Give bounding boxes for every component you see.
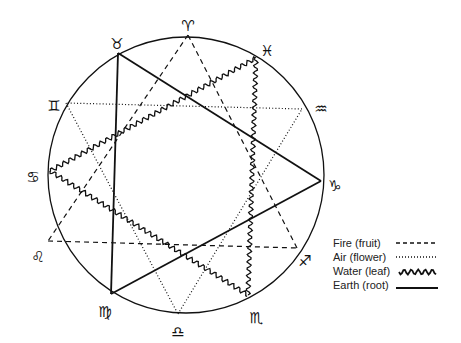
virgo-glyph-icon: ♍︎	[98, 303, 111, 321]
water-edge	[50, 171, 247, 296]
water-edge	[50, 57, 256, 172]
legend-item-air: Air (flower)	[333, 251, 438, 263]
zodiac-element-diagram: ♈︎♉︎♊︎♋︎♌︎♍︎♎︎♏︎♐︎♑︎♒︎♓︎ Fire (fruit)Air…	[0, 0, 461, 343]
outer-circle	[48, 37, 324, 313]
scorpio-glyph-icon: ♏︎	[249, 309, 263, 327]
pisces-glyph-icon: ♓︎	[260, 42, 273, 60]
legend: Fire (fruit)Air (flower)Water (leaf)Eart…	[333, 237, 438, 291]
legend-item-water: Water (leaf)	[333, 265, 436, 277]
earth-triangle	[111, 53, 321, 294]
legend-item-fire: Fire (fruit)	[333, 237, 438, 249]
gemini-glyph-icon: ♊︎	[47, 97, 60, 115]
legend-label: Earth (root)	[333, 279, 389, 291]
legend-label: Fire (fruit)	[333, 237, 381, 249]
zodiac-signs: ♈︎♉︎♊︎♋︎♌︎♍︎♎︎♏︎♐︎♑︎♒︎♓︎	[26, 17, 341, 341]
sagittarius-glyph-icon: ♐︎	[298, 252, 311, 270]
water-triangle	[50, 57, 258, 296]
legend-label: Air (flower)	[333, 251, 386, 263]
air-edge	[178, 109, 302, 314]
aries-glyph-icon: ♈︎	[181, 17, 194, 35]
air-edge	[66, 103, 178, 314]
zodiac-circle	[48, 37, 324, 313]
taurus-glyph-icon: ♉︎	[110, 35, 123, 53]
cancer-glyph-icon: ♋︎	[26, 168, 39, 186]
leo-glyph-icon: ♌︎	[31, 248, 44, 266]
fire-edge	[188, 35, 297, 248]
legend-swatch	[399, 270, 436, 275]
legend-item-earth: Earth (root)	[333, 279, 438, 291]
libra-glyph-icon: ♎︎	[171, 323, 184, 341]
capricorn-glyph-icon: ♑︎	[328, 177, 341, 195]
water-edge	[246, 58, 258, 295]
aquarius-glyph-icon: ♒︎	[314, 100, 327, 118]
air-edge	[66, 103, 302, 109]
earth-edge	[111, 53, 118, 294]
air-triangle	[66, 103, 302, 314]
legend-label: Water (leaf)	[333, 265, 390, 277]
